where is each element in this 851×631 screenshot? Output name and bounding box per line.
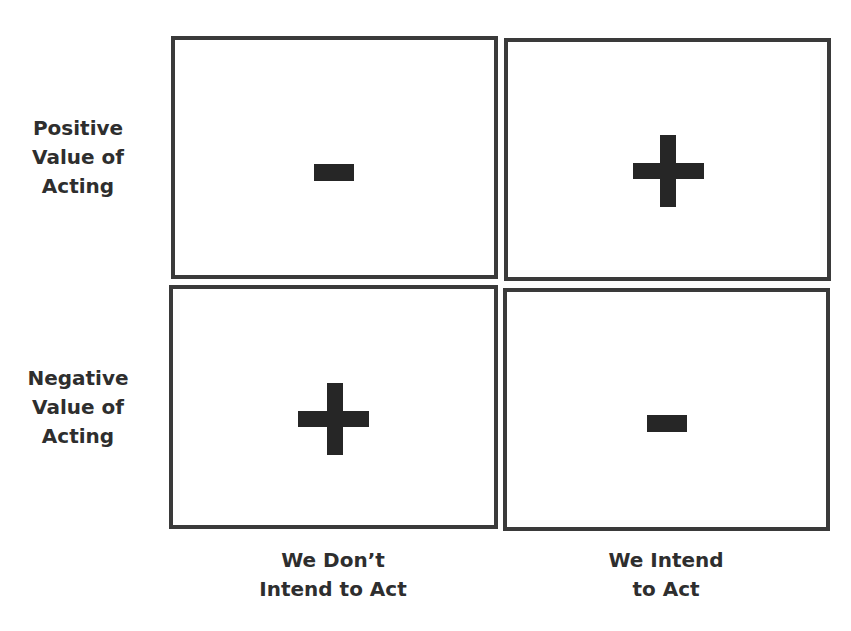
row-label-positive-value: Positive Value of Acting (18, 114, 138, 201)
row-label-line: Negative (18, 364, 138, 393)
plus-icon (298, 383, 369, 455)
minus-icon (647, 415, 687, 432)
column-label-intend: We Intend to Act (566, 546, 766, 604)
minus-icon (314, 164, 354, 181)
row-label-line: Value of (18, 143, 138, 172)
column-label-line: We Don’t (233, 546, 433, 575)
row-label-line: Acting (18, 172, 138, 201)
column-label-line: We Intend (566, 546, 766, 575)
cell-positive-dont-intend (171, 36, 498, 279)
plus-icon (633, 135, 704, 207)
row-label-line: Positive (18, 114, 138, 143)
cell-negative-intend (503, 288, 830, 531)
row-label-line: Value of (18, 393, 138, 422)
row-label-negative-value: Negative Value of Acting (18, 364, 138, 451)
column-label-line: to Act (566, 575, 766, 604)
row-label-line: Acting (18, 422, 138, 451)
column-label-line: Intend to Act (233, 575, 433, 604)
column-label-dont-intend: We Don’t Intend to Act (233, 546, 433, 604)
